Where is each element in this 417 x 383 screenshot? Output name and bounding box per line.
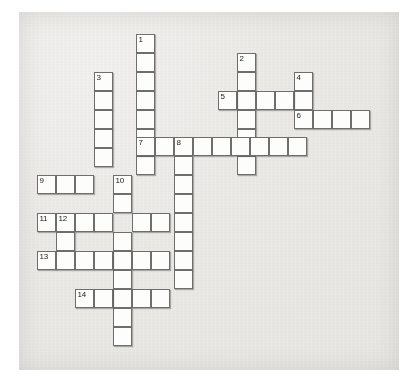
crossword-cell[interactable] — [288, 137, 307, 156]
crossword-cell[interactable] — [155, 137, 174, 156]
crossword-cell[interactable] — [151, 289, 170, 308]
crossword-cell[interactable] — [313, 110, 332, 129]
crossword-cell[interactable] — [94, 91, 113, 110]
crossword-cell[interactable] — [56, 251, 75, 270]
crossword-cell[interactable] — [113, 289, 132, 308]
crossword-cell[interactable] — [174, 175, 193, 194]
crossword-cell-numbered-5[interactable]: 5 — [218, 91, 237, 110]
crossword-cell[interactable] — [75, 213, 94, 232]
crossword-cell[interactable] — [174, 232, 193, 251]
crossword-cell-numbered-12[interactable]: 12 — [56, 213, 75, 232]
cell-number: 4 — [297, 73, 301, 82]
crossword-cell[interactable] — [113, 308, 132, 327]
crossword-cell[interactable] — [56, 232, 75, 251]
crossword-cell[interactable] — [56, 175, 75, 194]
cell-number: 2 — [240, 54, 244, 63]
crossword-cell[interactable] — [151, 251, 170, 270]
crossword-cell-numbered-1[interactable]: 1 — [136, 34, 155, 53]
crossword-cell[interactable] — [136, 110, 155, 129]
cell-number: 7 — [139, 138, 143, 147]
crossword-cell[interactable] — [174, 194, 193, 213]
crossword-cell[interactable] — [231, 137, 250, 156]
crossword-cell[interactable] — [132, 251, 151, 270]
crossword-cell[interactable] — [256, 91, 275, 110]
cell-number: 5 — [221, 92, 225, 101]
crossword-cell[interactable] — [351, 110, 370, 129]
cell-number: 8 — [177, 138, 181, 147]
crossword-cell[interactable] — [94, 251, 113, 270]
crossword-cell[interactable] — [294, 91, 313, 110]
crossword-cell-numbered-14[interactable]: 14 — [75, 289, 94, 308]
crossword-cell-numbered-2[interactable]: 2 — [237, 53, 256, 72]
cell-number: 13 — [40, 252, 48, 261]
crossword-cell[interactable] — [75, 251, 94, 270]
crossword-cell[interactable] — [113, 327, 132, 346]
cell-number: 12 — [59, 214, 67, 223]
crossword-cell[interactable] — [212, 137, 231, 156]
crossword-cell[interactable] — [94, 289, 113, 308]
crossword-cell-numbered-9[interactable]: 9 — [37, 175, 56, 194]
crossword-cell[interactable] — [332, 110, 351, 129]
crossword-cell[interactable] — [250, 137, 269, 156]
crossword-cell[interactable] — [136, 91, 155, 110]
crossword-cell[interactable] — [174, 213, 193, 232]
crossword-cell[interactable] — [237, 110, 256, 129]
crossword-cell[interactable] — [174, 156, 193, 175]
crossword-cell[interactable] — [151, 213, 170, 232]
crossword-cell[interactable] — [94, 129, 113, 148]
crossword-page: 1234567891011121314 — [0, 0, 417, 383]
crossword-cell[interactable] — [132, 213, 151, 232]
crossword-cell[interactable] — [113, 251, 132, 270]
crossword-cell[interactable] — [113, 194, 132, 213]
crossword-cell[interactable] — [136, 72, 155, 91]
crossword-cell-numbered-6[interactable]: 6 — [294, 110, 313, 129]
cell-number: 11 — [40, 214, 48, 223]
crossword-cell[interactable] — [174, 251, 193, 270]
crossword-cell[interactable] — [237, 72, 256, 91]
crossword-cell[interactable] — [269, 137, 288, 156]
crossword-cell-numbered-10[interactable]: 10 — [113, 175, 132, 194]
crossword-cell-numbered-11[interactable]: 11 — [37, 213, 56, 232]
crossword-cell[interactable] — [136, 53, 155, 72]
crossword-grid[interactable]: 1234567891011121314 — [0, 0, 417, 383]
crossword-cell[interactable] — [113, 270, 132, 289]
cell-number: 9 — [40, 176, 44, 185]
crossword-cell[interactable] — [75, 175, 94, 194]
crossword-cell[interactable] — [174, 270, 193, 289]
crossword-cell[interactable] — [136, 156, 155, 175]
crossword-cell[interactable] — [193, 137, 212, 156]
crossword-cell[interactable] — [237, 91, 256, 110]
cell-number: 6 — [297, 111, 301, 120]
crossword-cell[interactable] — [237, 156, 256, 175]
crossword-cell-numbered-3[interactable]: 3 — [94, 72, 113, 91]
crossword-cell-numbered-8[interactable]: 8 — [174, 137, 193, 156]
cell-number: 1 — [139, 35, 143, 44]
crossword-cell-numbered-4[interactable]: 4 — [294, 72, 313, 91]
crossword-cell[interactable] — [94, 110, 113, 129]
cell-number: 10 — [116, 176, 124, 185]
crossword-cell-numbered-13[interactable]: 13 — [37, 251, 56, 270]
crossword-cell-numbered-7[interactable]: 7 — [136, 137, 155, 156]
crossword-cell[interactable] — [113, 232, 132, 251]
crossword-cell[interactable] — [94, 148, 113, 167]
crossword-cell[interactable] — [94, 213, 113, 232]
crossword-cell[interactable] — [132, 289, 151, 308]
cell-number: 14 — [78, 290, 86, 299]
crossword-cell[interactable] — [275, 91, 294, 110]
cell-number: 3 — [97, 73, 101, 82]
